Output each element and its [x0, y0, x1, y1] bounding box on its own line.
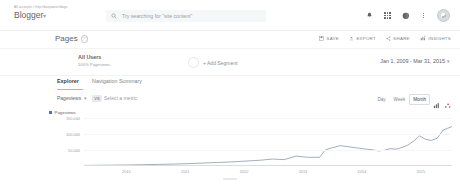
- account-breadcrumb: All accounts > http://busjuweel.blogs: [14, 5, 119, 9]
- plus-circle-icon: [188, 57, 199, 68]
- granularity-month[interactable]: Month: [409, 94, 430, 105]
- page-title: Pages?: [55, 34, 88, 43]
- x-tick-label: 2014: [358, 169, 367, 174]
- segment-detail: 100% Pageviews: [78, 62, 110, 67]
- gridline: [84, 134, 452, 135]
- save-icon: [319, 36, 324, 41]
- insights-icon: [420, 35, 426, 41]
- page-title-row: Pages? SAVE EXPORT SHARE INSIGHTS: [0, 30, 460, 48]
- x-tick-label: 2010: [122, 169, 131, 174]
- save-button[interactable]: SAVE: [319, 36, 339, 41]
- export-button[interactable]: EXPORT: [349, 36, 376, 41]
- y-axis: 150,000 100,000 50,000: [28, 108, 80, 164]
- y-tick-label: 150,000: [66, 116, 80, 121]
- top-bar: All accounts > http://busjuweel.blogs Bl…: [0, 0, 460, 31]
- account-name-label: Blogger: [14, 10, 43, 20]
- toolbar-actions: SAVE EXPORT SHARE INSIGHTS: [319, 35, 451, 41]
- granularity-group: Day Week Month: [373, 94, 430, 105]
- insights-label: INSIGHTS: [428, 36, 451, 41]
- chart-area: Pageviews 150,000 100,000 50,000 2010 20…: [0, 108, 460, 186]
- y-tick-label: 50,000: [68, 148, 80, 153]
- notifications-icon[interactable]: [365, 11, 374, 20]
- x-tick-label: 2012: [240, 169, 249, 174]
- top-icon-group: [365, 9, 450, 22]
- search-placeholder: Try searching for "site content": [122, 13, 192, 19]
- tab-navigation-summary[interactable]: Navigation Summary: [92, 78, 142, 84]
- export-label: EXPORT: [356, 36, 375, 41]
- x-tick-label: 2013: [299, 169, 308, 174]
- help-circle-icon[interactable]: ?: [81, 35, 89, 43]
- chevron-down-icon: ▾: [447, 58, 450, 64]
- chart-plot[interactable]: [84, 108, 452, 166]
- granularity-day[interactable]: Day: [373, 94, 389, 105]
- horizontal-scrollbar[interactable]: [223, 178, 237, 180]
- tab-row: Explorer Navigation Summary: [0, 76, 460, 90]
- overflow-menu-icon[interactable]: [419, 11, 428, 20]
- metric-row: Pageviews ▾ VS Select a metric Day Week …: [0, 92, 460, 108]
- user-avatar[interactable]: [437, 9, 450, 22]
- segment-row: All Users 100% Pageviews + Add Segment J…: [0, 48, 460, 76]
- tab-active-underline: [57, 89, 83, 90]
- add-segment-label: + Add Segment: [203, 60, 237, 66]
- share-icon: [386, 36, 391, 41]
- chevron-down-icon: ▾: [84, 96, 87, 101]
- secondary-metric-selector[interactable]: Select a metric: [104, 95, 137, 101]
- search-input[interactable]: Try searching for "site content": [106, 10, 266, 22]
- gridline: [84, 118, 452, 119]
- save-label: SAVE: [326, 36, 338, 41]
- granularity-week[interactable]: Week: [390, 94, 410, 105]
- x-tick-label: 2011: [181, 169, 189, 174]
- analytics-app: All accounts > http://busjuweel.blogs Bl…: [0, 0, 460, 186]
- x-tick-label: 2015: [416, 169, 425, 174]
- pageviews-line-series: [84, 108, 452, 166]
- segment-name: All Users: [78, 54, 110, 60]
- chevron-down-icon: ▾: [43, 13, 46, 19]
- apps-grid-icon[interactable]: [383, 11, 392, 20]
- add-segment-button[interactable]: + Add Segment: [188, 57, 237, 68]
- tab-explorer[interactable]: Explorer: [57, 78, 79, 84]
- primary-metric-label: Pageviews: [57, 95, 81, 101]
- x-axis: 2010 2011 2012 2013 2014 2015: [84, 165, 452, 180]
- share-button[interactable]: SHARE: [386, 36, 410, 41]
- export-icon: [349, 36, 354, 41]
- gridline: [84, 150, 452, 151]
- date-range-label: Jan 1, 2009 - Mar 31, 2015: [380, 58, 445, 64]
- primary-metric-selector[interactable]: Pageviews ▾: [57, 95, 87, 101]
- page-title-label: Pages: [55, 34, 78, 43]
- search-icon: [111, 13, 117, 19]
- help-icon[interactable]: [401, 11, 410, 20]
- account-name[interactable]: Blogger▾: [14, 10, 119, 22]
- segment-chip[interactable]: All Users 100% Pageviews: [78, 54, 110, 67]
- vs-badge: VS: [92, 95, 102, 102]
- y-tick-label: 100,000: [66, 132, 80, 137]
- insights-button[interactable]: INSIGHTS: [420, 35, 451, 41]
- date-range-selector[interactable]: Jan 1, 2009 - Mar 31, 2015▾: [380, 58, 450, 64]
- share-label: SHARE: [393, 36, 409, 41]
- account-switcher[interactable]: All accounts > http://busjuweel.blogs Bl…: [14, 5, 119, 22]
